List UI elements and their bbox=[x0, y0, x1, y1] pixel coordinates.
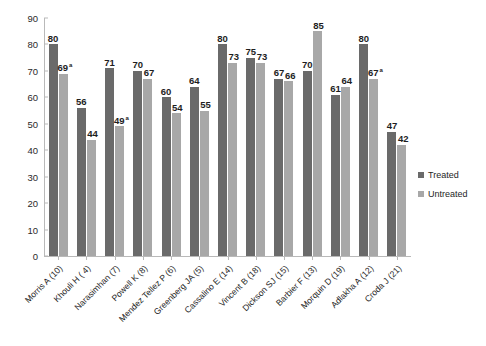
bar-value-label: 54 bbox=[172, 103, 183, 113]
bar-treated: 60 bbox=[162, 97, 171, 256]
bar-treated: 75 bbox=[246, 58, 255, 256]
bar-treated: 67 bbox=[274, 79, 283, 256]
bar-value-label: 49a bbox=[114, 115, 129, 126]
y-axis-tick-label: 90 bbox=[27, 13, 44, 24]
bar-untreated: 55 bbox=[200, 111, 209, 256]
bar-treated: 64 bbox=[190, 87, 199, 256]
bar-value-label: 67 bbox=[274, 68, 285, 78]
legend-swatch-icon bbox=[418, 191, 424, 197]
bar-value-label: 80 bbox=[48, 34, 59, 44]
bar-treated: 80 bbox=[49, 44, 58, 256]
bar-untreated: 67 bbox=[143, 79, 152, 256]
bar-value-label: 80 bbox=[358, 34, 369, 44]
caption-strip bbox=[0, 338, 486, 346]
bar-untreated: 42 bbox=[397, 145, 406, 256]
bar-untreated: 73 bbox=[228, 63, 237, 256]
x-axis-tick-mark bbox=[228, 256, 229, 260]
x-axis-tick-mark bbox=[312, 256, 313, 260]
bar-value-label: 42 bbox=[398, 134, 409, 144]
x-axis-tick-mark bbox=[199, 256, 200, 260]
bar-untreated: 44 bbox=[87, 140, 96, 256]
legend-item[interactable]: Treated bbox=[418, 170, 484, 180]
bar-chart: 0102030405060708090 8069a56447149a706760… bbox=[0, 0, 486, 346]
bar-value-label: 67 bbox=[144, 68, 155, 78]
x-axis-labels: Morris A (10)Khouli H ( 4)Narasimhan (7)… bbox=[44, 262, 411, 342]
bar-value-label: 67a bbox=[368, 67, 383, 78]
y-axis-tick-label: 50 bbox=[27, 118, 44, 129]
bar-groups: 8069a56447149a70676054645580737573676670… bbox=[44, 18, 411, 256]
bar-value-label: 61 bbox=[330, 84, 341, 94]
x-axis-tick-mark bbox=[86, 256, 87, 260]
bar-group: 6455 bbox=[185, 18, 213, 256]
y-axis-tick-label: 30 bbox=[27, 171, 44, 182]
bar-group: 7085 bbox=[298, 18, 326, 256]
bar-value-label: 56 bbox=[76, 97, 87, 107]
legend-item[interactable]: Untreated bbox=[418, 189, 484, 199]
bar-treated: 47 bbox=[387, 132, 396, 256]
x-axis-label-slot: Croda J (21) bbox=[383, 262, 411, 342]
bar-group: 8073 bbox=[213, 18, 241, 256]
x-axis-tick-mark bbox=[143, 256, 144, 260]
bar-untreated: 49a bbox=[115, 126, 124, 256]
bar-value-label: 69a bbox=[57, 62, 72, 73]
bar-value-label: 80 bbox=[217, 34, 228, 44]
bar-treated: 56 bbox=[77, 108, 86, 256]
legend-label: Untreated bbox=[428, 189, 468, 199]
bar-group: 8067a bbox=[355, 18, 383, 256]
x-axis-tick-mark bbox=[256, 256, 257, 260]
bar-value-label: 66 bbox=[285, 71, 296, 81]
bar-group: 7149a bbox=[100, 18, 128, 256]
y-axis-tick-label: 70 bbox=[27, 65, 44, 76]
y-axis-tick-label: 40 bbox=[27, 145, 44, 156]
bar-treated: 71 bbox=[105, 68, 114, 256]
y-axis-tick-label: 60 bbox=[27, 92, 44, 103]
x-axis-tick-mark bbox=[340, 256, 341, 260]
bar-value-label: 60 bbox=[161, 87, 172, 97]
bar-group: 6766 bbox=[270, 18, 298, 256]
y-axis-tick-label: 10 bbox=[27, 224, 44, 235]
bar-value-label: 47 bbox=[387, 121, 398, 131]
x-axis-tick-mark bbox=[369, 256, 370, 260]
bar-group: 4742 bbox=[383, 18, 411, 256]
bar-group: 6054 bbox=[157, 18, 185, 256]
x-axis-tick-mark bbox=[284, 256, 285, 260]
x-axis-tick-mark bbox=[171, 256, 172, 260]
y-axis-tick-label: 0 bbox=[33, 251, 44, 262]
bar-group: 8069a bbox=[44, 18, 72, 256]
x-axis-tick-mark bbox=[397, 256, 398, 260]
bar-untreated: 69a bbox=[59, 74, 68, 256]
bar-untreated: 66 bbox=[284, 81, 293, 256]
bar-group: 7067 bbox=[129, 18, 157, 256]
bar-value-label: 64 bbox=[341, 76, 352, 86]
y-axis-tick-label: 80 bbox=[27, 39, 44, 50]
bar-treated: 80 bbox=[218, 44, 227, 256]
bar-group: 7573 bbox=[242, 18, 270, 256]
bar-value-label: 75 bbox=[245, 47, 256, 57]
plot-area: 0102030405060708090 8069a56447149a706760… bbox=[44, 18, 411, 256]
bar-value-label: 44 bbox=[87, 129, 98, 139]
bar-value-label: 73 bbox=[257, 52, 268, 62]
bar-treated: 70 bbox=[303, 71, 312, 256]
bar-untreated: 67a bbox=[369, 79, 378, 256]
bar-untreated: 54 bbox=[172, 113, 181, 256]
bar-treated: 61 bbox=[331, 95, 340, 256]
bar-value-label: 73 bbox=[228, 52, 239, 62]
bar-untreated: 64 bbox=[341, 87, 350, 256]
bar-treated: 70 bbox=[133, 71, 142, 256]
bar-treated: 80 bbox=[359, 44, 368, 256]
bar-value-label: 70 bbox=[133, 60, 144, 70]
legend-label: Treated bbox=[428, 170, 459, 180]
bar-group: 5644 bbox=[72, 18, 100, 256]
bar-value-label: 71 bbox=[104, 58, 115, 68]
legend-swatch-icon bbox=[418, 172, 424, 178]
bar-untreated: 73 bbox=[256, 63, 265, 256]
bar-value-label: 85 bbox=[313, 21, 324, 31]
chart-legend: TreatedUntreated bbox=[418, 170, 484, 208]
bar-value-label: 70 bbox=[302, 60, 313, 70]
bar-untreated: 85 bbox=[313, 31, 322, 256]
x-axis-tick-mark bbox=[58, 256, 59, 260]
bar-group: 6164 bbox=[326, 18, 354, 256]
y-axis-tick-label: 20 bbox=[27, 198, 44, 209]
x-axis-tick-mark bbox=[115, 256, 116, 260]
bar-value-label: 55 bbox=[200, 100, 211, 110]
